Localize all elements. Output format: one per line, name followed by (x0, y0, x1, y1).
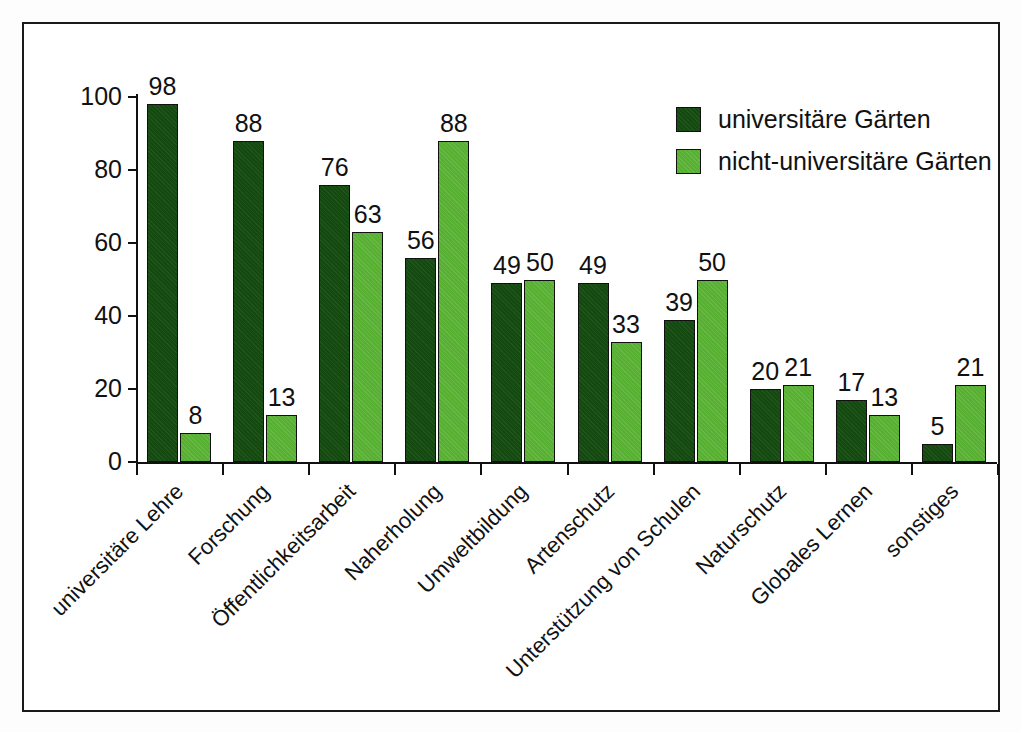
y-axis-tick-label: 40 (94, 303, 122, 328)
legend-item-universitaere-gaerten: universitäre Gärten (676, 98, 992, 140)
bar-series-1-category-0 (180, 433, 211, 462)
y-axis-tick (128, 242, 137, 244)
chart-figure: 020406080100 988881376635688495049333950… (0, 0, 1021, 732)
y-axis-tick (128, 315, 137, 317)
chart-frame: 020406080100 988881376635688495049333950… (22, 22, 1000, 712)
bar-series-0-category-1 (233, 141, 264, 462)
bar-series-0-category-7 (750, 389, 781, 462)
bar-series-1-category-1 (266, 415, 297, 462)
x-axis-tick (911, 464, 913, 475)
category-label-9: sonstiges (881, 480, 962, 561)
x-axis-tick (136, 464, 138, 475)
y-axis-tick (128, 388, 137, 390)
legend-label-series-0: universitäre Gärten (718, 107, 931, 132)
bar-value-label-series-0-category-9: 5 (914, 414, 961, 439)
bar-value-label-series-1-category-4: 50 (516, 250, 563, 275)
x-axis-tick (825, 464, 827, 475)
x-axis-tick (222, 464, 224, 475)
y-axis-tick-label: 100 (80, 84, 122, 109)
y-axis-tick-label: 0 (108, 449, 122, 474)
y-axis-tick (128, 461, 137, 463)
bar-value-label-series-0-category-0: 98 (139, 74, 186, 99)
legend-swatch-icon-series-0 (676, 107, 701, 132)
bar-series-0-category-9 (922, 444, 953, 462)
bar-series-1-category-2 (352, 232, 383, 462)
bar-series-0-category-6 (664, 320, 695, 462)
legend-item-nicht-universitaere-gaerten: nicht-universitäre Gärten (676, 140, 992, 182)
bar-series-1-category-6 (697, 280, 728, 463)
bar-value-label-series-1-category-7: 21 (775, 355, 822, 380)
bar-series-0-category-3 (405, 258, 436, 462)
bar-value-label-series-1-category-0: 8 (172, 403, 219, 428)
bar-value-label-series-1-category-3: 88 (430, 111, 477, 136)
y-axis-tick (128, 169, 137, 171)
bar-series-1-category-3 (438, 141, 469, 462)
bar-value-label-series-1-category-5: 33 (603, 312, 650, 337)
y-axis-tick-label: 60 (94, 230, 122, 255)
bar-series-1-category-4 (524, 280, 555, 463)
bar-series-1-category-9 (955, 385, 986, 462)
y-axis-tick-label: 20 (94, 376, 122, 401)
y-axis-tick (128, 96, 137, 98)
bar-series-0-category-5 (578, 283, 609, 462)
bar-value-label-series-0-category-6: 39 (656, 290, 703, 315)
bar-value-label-series-1-category-9: 21 (947, 355, 994, 380)
chart-legend: universitäre Gärten nicht-universitäre G… (676, 98, 992, 182)
bar-value-label-series-0-category-1: 88 (225, 111, 272, 136)
x-axis-tick (653, 464, 655, 475)
category-label-0: universitäre Lehre (47, 480, 187, 620)
x-axis-tick (739, 464, 741, 475)
x-axis-tick (997, 464, 999, 475)
bar-value-label-series-0-category-2: 76 (311, 155, 358, 180)
x-axis-tick (308, 464, 310, 475)
bar-value-label-series-1-category-6: 50 (689, 250, 736, 275)
bar-value-label-series-0-category-5: 49 (570, 253, 617, 278)
legend-label-series-1: nicht-universitäre Gärten (718, 149, 992, 174)
x-axis-tick (394, 464, 396, 475)
bar-value-label-series-1-category-8: 13 (861, 385, 908, 410)
x-axis-tick (567, 464, 569, 475)
y-axis-tick-label: 80 (94, 157, 122, 182)
bar-value-label-series-1-category-2: 63 (344, 202, 391, 227)
x-axis-tick (480, 464, 482, 475)
category-label-1: Forschung (185, 480, 274, 569)
bar-series-1-category-7 (783, 385, 814, 462)
legend-swatch-icon-series-1 (676, 149, 701, 174)
bar-series-1-category-8 (869, 415, 900, 462)
bar-series-0-category-4 (491, 283, 522, 462)
y-axis-tick-labels: 020406080100 (24, 24, 122, 484)
bar-series-1-category-5 (611, 342, 642, 462)
bar-value-label-series-1-category-1: 13 (258, 385, 305, 410)
bar-value-label-series-0-category-3: 56 (397, 228, 444, 253)
